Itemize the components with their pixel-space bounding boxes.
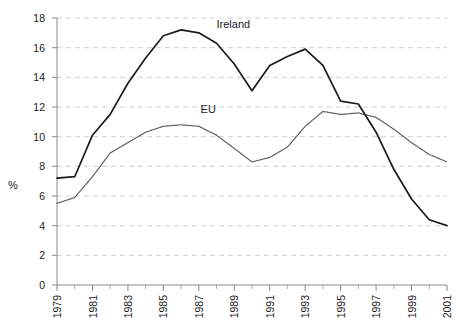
- x-axis-label-1991: 1991: [264, 295, 276, 319]
- y-axis-label-0: 0: [39, 279, 45, 291]
- series-annotations: Ireland EU: [201, 18, 251, 115]
- x-axis-label-1997: 1997: [370, 295, 382, 319]
- x-axis-label-1999: 1999: [406, 295, 418, 319]
- y-axis-label-12: 12: [33, 101, 45, 113]
- y-tick-labels: 18 16 14 12 10 8 6 4 2 0: [33, 12, 45, 291]
- series-annotation-eu: EU: [201, 103, 216, 115]
- y-tick-marks: [52, 18, 57, 285]
- y-axis-label-4: 4: [39, 220, 45, 232]
- x-axis-label-2001: 2001: [441, 295, 453, 319]
- y-axis-label-2: 2: [39, 249, 45, 261]
- y-axis-label-6: 6: [39, 190, 45, 202]
- unemployment-rate-line-chart: 18 16 14 12 10 8 6 4 2 0 %: [0, 0, 469, 327]
- x-tick-labels: 1979 1981 1983 1985 1987 1989 1991 1993 …: [51, 295, 453, 319]
- chart-plot-area: 18 16 14 12 10 8 6 4 2 0 %: [0, 0, 469, 327]
- y-axis-title: %: [8, 179, 18, 191]
- x-axis-label-1989: 1989: [228, 295, 240, 319]
- y-axis-label-14: 14: [33, 71, 45, 83]
- series-annotation-ireland: Ireland: [217, 18, 251, 30]
- x-axis-label-1981: 1981: [87, 295, 99, 319]
- y-axis-label-18: 18: [33, 12, 45, 24]
- x-axis-label-1985: 1985: [157, 295, 169, 319]
- y-axis-label-10: 10: [33, 131, 45, 143]
- x-axis-label-1987: 1987: [193, 295, 205, 319]
- y-gridlines: [57, 18, 447, 255]
- y-axis-label-8: 8: [39, 160, 45, 172]
- x-axis-label-1979: 1979: [51, 295, 63, 319]
- axes: [57, 18, 447, 285]
- y-axis-label-16: 16: [33, 42, 45, 54]
- x-axis-label-1993: 1993: [299, 295, 311, 319]
- x-axis-label-1995: 1995: [335, 295, 347, 319]
- x-axis-label-1983: 1983: [122, 295, 134, 319]
